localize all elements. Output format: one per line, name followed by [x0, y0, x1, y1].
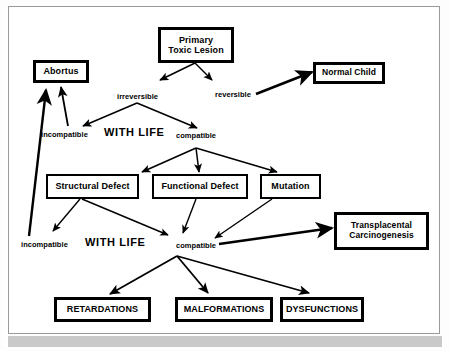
- edge-irreversible-to-incompatible: [83, 103, 137, 126]
- node-transplacental-carcinogenesis[interactable]: Transplacental Carcinogenesis: [334, 212, 429, 250]
- edge-compatible1-to-structural: [142, 148, 196, 172]
- node-label: Mutation: [271, 181, 309, 191]
- edge-structural-to-incompatible2: [53, 199, 80, 231]
- node-label: RETARDATIONS: [67, 304, 138, 314]
- edge-compatible2-to-retardations: [110, 256, 177, 294]
- edge-compatible1-to-functional: [196, 148, 199, 172]
- edge-lesion-to-irreversible: [160, 63, 195, 80]
- edge-functional-to-compatible2: [183, 199, 196, 233]
- edge-structural-to-compatible2: [82, 199, 168, 235]
- edge-compatible2-to-malformations: [177, 256, 208, 293]
- node-label: Structural Defect: [55, 181, 129, 191]
- node-label: Normal Child: [322, 68, 376, 78]
- edge-compatible1-to-mutation: [196, 148, 277, 172]
- edge-compatible2-to-dysfunctions: [177, 256, 309, 293]
- node-malformations[interactable]: MALFORMATIONS: [175, 297, 273, 322]
- edge-lesion-to-reversible: [195, 63, 212, 80]
- edge-incompatible2-to-abortus: [29, 90, 46, 236]
- node-retardations[interactable]: RETARDATIONS: [54, 297, 151, 322]
- edge-label-compatible-1: compatible: [176, 131, 216, 140]
- node-label-line1: Transplacental: [351, 220, 412, 230]
- node-structural-defect[interactable]: Structural Defect: [46, 174, 139, 199]
- edge-label-incompatible-2: incompatible: [21, 240, 68, 249]
- edge-label-with-life-1: WITH LIFE: [104, 126, 164, 138]
- node-label-line2: Carcinogenesis: [349, 230, 414, 240]
- node-label: Functional Defect: [161, 181, 238, 191]
- edge-compatible2-to-transplacental: [219, 228, 332, 244]
- edge-label-incompatible-1: incompatible: [41, 130, 88, 139]
- edge-incompatible1-to-abortus: [61, 87, 68, 126]
- node-label: MALFORMATIONS: [184, 304, 265, 314]
- edge-reversible-to-normal-child: [256, 72, 312, 94]
- diagram-canvas: Primary Toxic Lesion Abortus Normal Chil…: [0, 0, 450, 351]
- edge-label-with-life-2: WITH LIFE: [85, 236, 145, 248]
- edge-mutation-to-compatible2: [215, 199, 272, 238]
- node-label-line1: Primary: [179, 35, 213, 45]
- node-label: Abortus: [43, 66, 78, 76]
- edge-label-compatible-2: compatible: [176, 241, 216, 250]
- node-primary-toxic-lesion[interactable]: Primary Toxic Lesion: [158, 27, 234, 63]
- edge-label-irreversible: irreversible: [117, 92, 158, 101]
- edge-irreversible-to-compatible: [137, 103, 197, 128]
- edge-label-reversible: reversible: [215, 90, 251, 99]
- node-normal-child[interactable]: Normal Child: [313, 62, 385, 84]
- node-abortus[interactable]: Abortus: [33, 60, 89, 83]
- node-label-line2: Toxic Lesion: [168, 45, 224, 55]
- node-label: DYSFUNCTIONS: [286, 304, 358, 314]
- node-mutation[interactable]: Mutation: [260, 174, 321, 199]
- node-functional-defect[interactable]: Functional Defect: [152, 174, 248, 199]
- node-dysfunctions[interactable]: DYSFUNCTIONS: [280, 297, 364, 322]
